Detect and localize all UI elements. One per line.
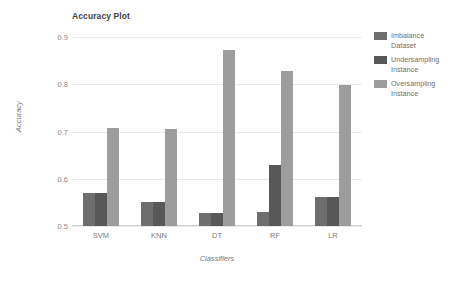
bar — [107, 128, 119, 226]
accuracy-bar-chart: Accuracy Plot 0.90.80.70.60.5 SVMKNNDTRF… — [0, 0, 463, 284]
y-axis-tick-label: 0.8 — [58, 80, 68, 89]
bar-group — [81, 37, 121, 226]
bar — [257, 212, 269, 226]
legend-label: UndersamplingInstance — [391, 55, 439, 74]
legend-swatch — [374, 56, 387, 64]
chart-legend: ImbalanceDatasetUndersamplingInstanceOve… — [374, 31, 460, 103]
chart-title: Accuracy Plot — [72, 11, 130, 21]
legend-label: ImbalanceDataset — [391, 31, 424, 50]
bar — [153, 202, 165, 226]
bar-group — [139, 37, 179, 226]
legend-item[interactable]: OversamplingInstance — [374, 79, 460, 98]
y-axis-title: Accuracy — [14, 101, 23, 132]
x-axis-tick-label: KNN — [151, 231, 167, 240]
bar — [141, 202, 153, 226]
legend-swatch — [374, 80, 387, 88]
x-axis-tick-label: RF — [270, 231, 280, 240]
y-axis-tick-label: 0.5 — [58, 222, 68, 231]
bar-group — [313, 37, 353, 226]
bar — [281, 71, 293, 226]
gridline — [72, 226, 362, 227]
bar-group — [255, 37, 295, 226]
y-axis-tick-labels: 0.90.80.70.60.5 — [52, 37, 68, 226]
bar — [95, 193, 107, 226]
y-axis-tick-label: 0.9 — [58, 33, 68, 42]
legend-swatch — [374, 32, 387, 40]
legend-item[interactable]: ImbalanceDataset — [374, 31, 460, 50]
bar — [269, 165, 281, 226]
plot-area — [72, 37, 362, 226]
bar — [223, 50, 235, 226]
bar — [199, 213, 211, 226]
x-axis-tick-label: LR — [328, 231, 338, 240]
bar — [315, 197, 327, 226]
x-axis-title: Classifiers — [200, 254, 235, 263]
bar — [339, 85, 351, 226]
y-axis-tick-label: 0.6 — [58, 174, 68, 183]
legend-label: OversamplingInstance — [391, 79, 435, 98]
bar — [165, 129, 177, 226]
legend-item[interactable]: UndersamplingInstance — [374, 55, 460, 74]
bar — [211, 213, 223, 226]
y-axis-tick-label: 0.7 — [58, 127, 68, 136]
bar — [83, 193, 95, 226]
x-axis-tick-label: SVM — [93, 231, 109, 240]
bar-group — [197, 37, 237, 226]
x-axis-tick-label: DT — [212, 231, 222, 240]
bar — [327, 197, 339, 226]
